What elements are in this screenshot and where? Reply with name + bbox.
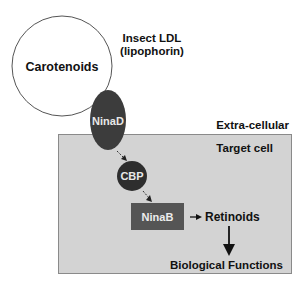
pathway-diagram: Carotenoids Insect LDL (lipophorin) Nina… (0, 0, 305, 285)
retinoids-label: Retinoids (205, 210, 260, 224)
biological-functions-label: Biological Functions (170, 259, 283, 271)
insect-ldl-label: Insect LDL (123, 32, 182, 44)
extracellular-label: Extra-cellular (216, 119, 289, 131)
cbp-label: CBP (120, 170, 143, 182)
ninad-label: NinaD (92, 115, 124, 127)
target-cell-label: Target cell (216, 142, 273, 154)
carotenoids-label: Carotenoids (26, 60, 99, 74)
lipophorin-label: (lipophorin) (120, 45, 184, 57)
ninab-label: NinaB (142, 211, 174, 223)
